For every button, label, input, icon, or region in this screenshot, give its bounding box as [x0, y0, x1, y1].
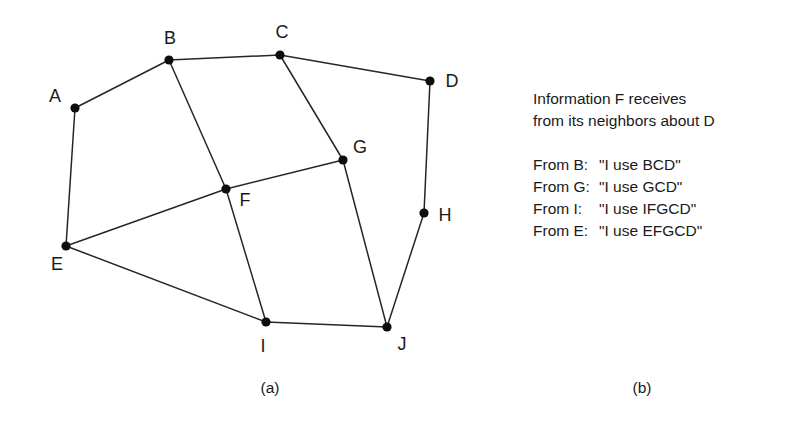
graph-edge-I-J	[266, 322, 387, 327]
info-message-from: From E:	[533, 220, 599, 242]
graph-node-D[interactable]	[425, 76, 434, 85]
info-message-row: From I: "I use IFGCD"	[533, 198, 809, 220]
graph-edge-A-E	[66, 108, 75, 246]
info-message-row: From B: "I use BCD"	[533, 154, 809, 176]
graph-node-label-layer: ABCDEFGHIJ	[49, 22, 459, 356]
graph-edge-E-F	[66, 189, 226, 246]
info-message-list: From B: "I use BCD" From G: "I use GCD" …	[533, 154, 809, 242]
graph-node-label-G: G	[353, 137, 367, 157]
graph-node-E[interactable]	[61, 241, 70, 250]
info-message-quote: "I use EFGCD"	[599, 220, 702, 242]
info-panel: Information F receives from its neighbor…	[533, 88, 809, 242]
graph-node-H[interactable]	[419, 208, 428, 217]
info-message-from: From B:	[533, 154, 599, 176]
graph-node-F[interactable]	[221, 184, 230, 193]
graph-edge-G-J	[343, 160, 387, 327]
graph-node-label-B: B	[164, 28, 176, 48]
network-graph: ABCDEFGHIJ	[0, 0, 490, 425]
graph-node-label-A: A	[49, 86, 61, 106]
graph-edge-H-J	[387, 213, 424, 327]
graph-edge-C-D	[280, 55, 430, 81]
graph-edge-B-C	[169, 55, 280, 60]
graph-node-label-F: F	[240, 190, 251, 210]
info-heading-line-1: Information F receives	[533, 88, 809, 110]
info-message-row: From E: "I use EFGCD"	[533, 220, 809, 242]
figure-root: ABCDEFGHIJ Information F receives from i…	[0, 0, 809, 425]
info-message-quote: "I use BCD"	[599, 154, 681, 176]
graph-node-G[interactable]	[338, 155, 347, 164]
graph-node-label-E: E	[51, 254, 63, 274]
caption-panel-b: (b)	[612, 379, 672, 397]
graph-node-label-C: C	[276, 22, 289, 42]
info-heading-line-2: from its neighbors about D	[533, 110, 809, 132]
graph-edge-C-G	[280, 55, 343, 160]
graph-node-B[interactable]	[164, 55, 173, 64]
graph-node-A[interactable]	[70, 103, 79, 112]
graph-node-label-D: D	[446, 71, 459, 91]
info-message-from: From G:	[533, 176, 599, 198]
info-message-row: From G: "I use GCD"	[533, 176, 809, 198]
graph-edge-D-H	[424, 81, 430, 213]
graph-edge-F-G	[226, 160, 343, 189]
info-message-quote: "I use GCD"	[599, 176, 682, 198]
info-message-from: From I:	[533, 198, 599, 220]
graph-node-J[interactable]	[382, 322, 391, 331]
graph-edge-A-B	[75, 60, 169, 108]
graph-edge-B-F	[169, 60, 226, 189]
graph-node-label-I: I	[260, 336, 265, 356]
graph-node-label-J: J	[398, 334, 407, 354]
graph-panel: ABCDEFGHIJ	[0, 0, 490, 425]
graph-node-label-H: H	[439, 205, 452, 225]
graph-node-I[interactable]	[261, 317, 270, 326]
graph-node-C[interactable]	[275, 50, 284, 59]
graph-edge-E-I	[66, 246, 266, 322]
info-message-quote: "I use IFGCD"	[599, 198, 696, 220]
caption-panel-a: (a)	[240, 379, 300, 397]
